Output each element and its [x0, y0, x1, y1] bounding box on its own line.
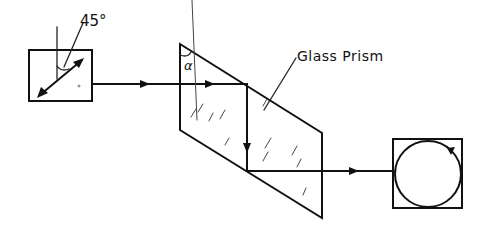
beam-arrow-icon: [205, 80, 215, 88]
beam-arrow-icon: [243, 143, 251, 153]
prism-leader-line: [264, 58, 296, 110]
alpha-label: α: [184, 58, 193, 73]
circular-polarization-box: [393, 139, 462, 208]
outgoing-beam: [247, 167, 394, 175]
beam-arrow-icon: [140, 80, 150, 88]
internal-beam: [243, 84, 251, 171]
linear-polarizer-box: [29, 23, 92, 101]
glass-prism: [180, 0, 322, 218]
fresnel-rhomb-diagram: 45° Gla: [0, 0, 480, 227]
prism-label: Glass Prism: [297, 48, 384, 64]
incoming-beam: [92, 80, 247, 88]
glass-hatching: [191, 0, 306, 195]
speck: [78, 85, 81, 88]
angle-arc: [57, 66, 69, 70]
beam-arrow-icon: [349, 167, 359, 175]
angle-45-label: 45°: [80, 12, 107, 30]
double-arrow-icon: [37, 58, 84, 98]
alpha-angle-arc: [180, 52, 191, 56]
